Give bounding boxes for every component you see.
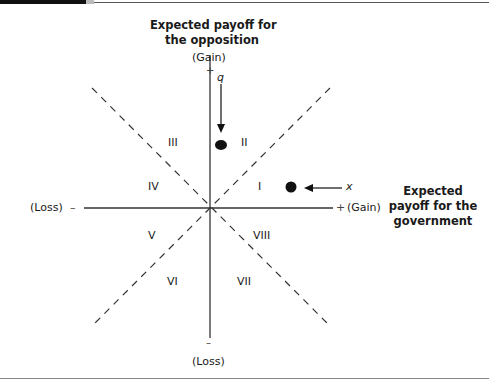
y-axis-title-line2: the opposition bbox=[150, 33, 274, 48]
bottom-rule bbox=[0, 378, 489, 379]
y-axis-bottom-label: (Loss) bbox=[192, 355, 225, 368]
x-axis-title-line1: Expected bbox=[383, 184, 483, 199]
x-axis-title-line2: payoff for the bbox=[383, 199, 483, 214]
x-axis-title-line3: government bbox=[383, 214, 483, 229]
region-vii: VII bbox=[237, 275, 251, 288]
region-i: I bbox=[258, 180, 261, 193]
y-axis-title: Expected payoff for the opposition bbox=[150, 18, 274, 48]
x-arrow-head bbox=[304, 184, 313, 192]
y-axis-top-sign: + bbox=[206, 65, 214, 76]
region-iv: IV bbox=[148, 180, 159, 193]
x-axis-right-label: (Gain) bbox=[347, 201, 381, 214]
region-ii: II bbox=[241, 136, 248, 149]
region-v: V bbox=[148, 229, 156, 242]
q-label: q bbox=[217, 71, 224, 84]
region-iii: III bbox=[168, 136, 178, 149]
x-axis-title: Expected payoff for the government bbox=[383, 184, 483, 229]
x-label: x bbox=[346, 180, 353, 193]
region-viii: VIII bbox=[253, 229, 270, 242]
q-point bbox=[215, 140, 227, 150]
x-axis-right-sign: + bbox=[336, 201, 345, 214]
y-axis-title-line1: Expected payoff for bbox=[150, 18, 274, 33]
region-vi: VI bbox=[167, 275, 178, 288]
y-axis-top-label: (Gain) bbox=[192, 51, 226, 64]
q-arrow-head bbox=[217, 124, 225, 133]
y-axis-bottom-sign: – bbox=[206, 337, 211, 348]
x-point bbox=[286, 182, 297, 193]
x-axis-left-label: (Loss) bbox=[30, 201, 63, 214]
x-axis-left-sign: – bbox=[70, 201, 76, 214]
